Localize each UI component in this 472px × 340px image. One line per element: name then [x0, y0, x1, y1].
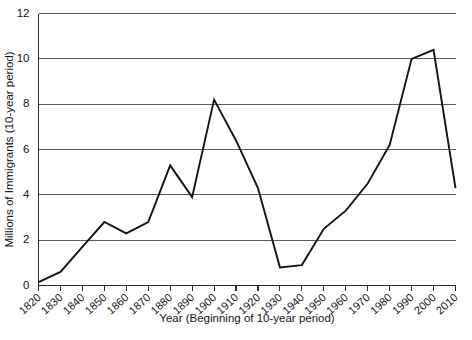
- y-axis-tick-label: 12: [17, 7, 30, 19]
- x-axis-tick-label: 2000: [412, 291, 438, 316]
- x-axis-tick-label: 1860: [104, 291, 130, 316]
- x-axis-tick-label: 1980: [368, 291, 394, 316]
- y-axis-tick-label: 4: [23, 188, 30, 200]
- line-chart: 024681012 182018301840185018601870188018…: [0, 0, 472, 340]
- y-axis-tick-label: 0: [23, 279, 29, 291]
- y-axis-tick-label: 10: [17, 52, 30, 64]
- y-axis-tick-label: 8: [23, 97, 29, 109]
- x-axis-tick-label: 2010: [434, 291, 460, 316]
- y-axis-title: Millions of Immigrants (10-year period): [3, 51, 15, 247]
- chart-canvas: 024681012 182018301840185018601870188018…: [0, 0, 472, 340]
- x-axis-tick-label: 1970: [346, 291, 372, 316]
- x-axis-tick-label: 1990: [390, 291, 416, 316]
- gridline-group: [39, 14, 456, 241]
- x-axis-tick-label: 1840: [61, 291, 87, 316]
- x-axis-tick-label: 1820: [17, 291, 43, 316]
- y-axis-tick-label: 2: [23, 233, 29, 245]
- x-axis-title: Year (Beginning of 10-year period): [159, 312, 335, 324]
- y-axis-tick-label: 6: [23, 143, 29, 155]
- y-axis-tick-labels: 024681012: [17, 7, 30, 291]
- x-axis-tick-label: 1870: [126, 291, 152, 316]
- x-axis-tick-label: 1850: [82, 291, 108, 316]
- data-series-line: [39, 50, 456, 282]
- x-axis-tick-marks: [39, 286, 456, 291]
- x-axis-tick-label: 1830: [39, 291, 65, 316]
